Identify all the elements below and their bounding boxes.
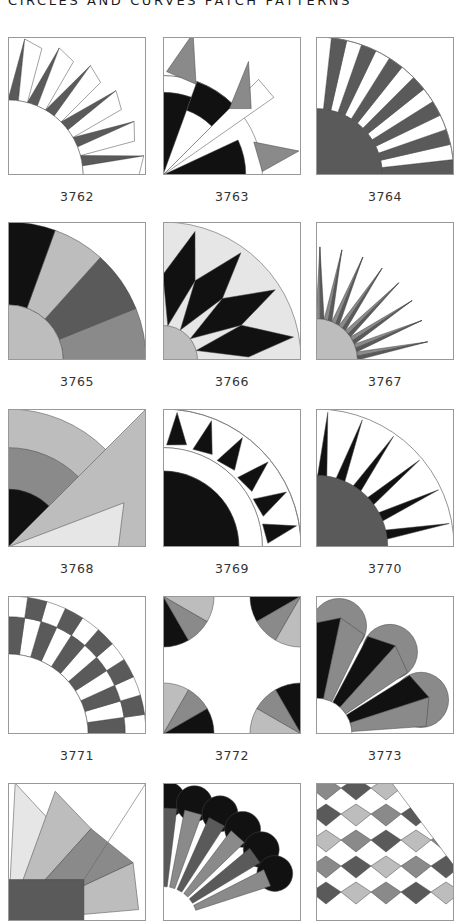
pattern-block-3774 [8, 783, 146, 921]
pattern-diagram [316, 222, 454, 360]
pattern-block-3764 [316, 37, 454, 175]
pattern-diagram [8, 783, 146, 921]
arc-patch [124, 714, 146, 734]
pattern-diagram [8, 596, 146, 734]
pattern-block-3770 [316, 409, 454, 547]
pattern-label: 3766 [163, 374, 301, 389]
pattern-label: 3764 [316, 189, 454, 204]
pattern-diagram [163, 409, 301, 547]
pattern-label: 3762 [8, 189, 146, 204]
page-title: CIRCLES AND CURVES PATCH PATTERNS [8, 0, 352, 8]
pattern-diagram [316, 409, 454, 547]
pattern-label: 3767 [316, 374, 454, 389]
pattern-diagram [163, 783, 301, 921]
pattern-block-3776 [316, 783, 454, 921]
pattern-diagram [163, 596, 301, 734]
pattern-block-3767 [316, 222, 454, 360]
pattern-label: 3765 [8, 374, 146, 389]
pattern-label: 3768 [8, 561, 146, 576]
pattern-diagram [316, 596, 454, 734]
pattern-diagram [163, 37, 301, 175]
pattern-diagram [316, 37, 454, 175]
pattern-diagram [8, 222, 146, 360]
arc-patch [8, 596, 28, 618]
pattern-label: 3771 [8, 748, 146, 763]
pattern-block-3765 [8, 222, 146, 360]
pattern-diagram [8, 37, 146, 175]
pattern-block-3775 [163, 783, 301, 921]
pattern-block-3762 [8, 37, 146, 175]
pattern-block-3769 [163, 409, 301, 547]
pattern-diagram [8, 409, 146, 547]
pattern-block-3766 [163, 222, 301, 360]
pattern-block-3772 [163, 596, 301, 734]
pattern-label: 3773 [316, 748, 454, 763]
pattern-label: 3763 [163, 189, 301, 204]
pattern-block-3773 [316, 596, 454, 734]
pattern-label: 3772 [163, 748, 301, 763]
pattern-block-3763 [163, 37, 301, 175]
pattern-label: 3770 [316, 561, 454, 576]
pattern-block-3771 [8, 596, 146, 734]
base-bar [8, 880, 84, 921]
pattern-diagram [163, 222, 301, 360]
pattern-block-3768 [8, 409, 146, 547]
pattern-diagram [316, 783, 454, 921]
pattern-label: 3769 [163, 561, 301, 576]
